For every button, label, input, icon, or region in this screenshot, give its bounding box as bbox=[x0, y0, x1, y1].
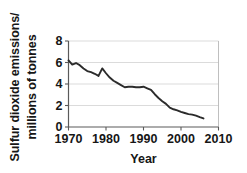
y-tick-label-group: 02468 bbox=[56, 34, 63, 134]
x-tick-label-1970: 1970 bbox=[55, 132, 83, 146]
x-tick-label-2010: 2010 bbox=[205, 132, 233, 146]
x-axis-title: Year bbox=[130, 152, 157, 166]
gridline-group bbox=[69, 41, 219, 106]
y-tick-label-4: 4 bbox=[56, 77, 63, 91]
y-tick-label-8: 8 bbox=[56, 34, 63, 48]
x-tick-label-2000: 2000 bbox=[167, 132, 195, 146]
chart-plot: 02468 19701980199020002010 Year bbox=[0, 0, 247, 173]
x-tick-label-group: 19701980199020002010 bbox=[55, 132, 233, 146]
x-tick-label-1990: 1990 bbox=[130, 132, 158, 146]
data-series-line bbox=[69, 60, 204, 118]
tick-mark-group bbox=[65, 41, 219, 131]
chart-figure: Sulfur dioxide emissions/ millions of to… bbox=[0, 0, 247, 173]
y-tick-label-6: 6 bbox=[56, 56, 63, 70]
x-tick-label-1980: 1980 bbox=[92, 132, 120, 146]
y-tick-label-2: 2 bbox=[56, 99, 63, 113]
